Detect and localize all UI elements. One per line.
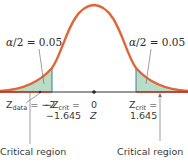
right-critical-region-fill — [136, 68, 188, 92]
alpha-right-label: α/2 = 0.05 — [129, 37, 185, 48]
critical-region-left-label: Critical region — [0, 147, 66, 157]
zdata-marker — [39, 91, 42, 94]
neg-zcrit-eq: = — [69, 99, 80, 110]
normal-curve — [0, 5, 188, 91]
pos-zcrit-label: Zcrit = — [129, 100, 157, 110]
alpha-value: /2 = 0.05 — [136, 36, 185, 48]
mean-marker — [92, 90, 96, 94]
center-zero-label: 0 — [91, 100, 97, 110]
alpha-left-label: α/2 = 0.05 — [6, 37, 62, 48]
zdata-sub: data — [13, 104, 28, 112]
normal-distribution-figure — [0, 0, 188, 166]
center-z-label: Z — [90, 111, 97, 121]
arrow-up-icon — [158, 93, 162, 97]
pos-zcrit-eq: = — [146, 99, 157, 110]
critical-region-right-label: Critical region — [117, 147, 183, 157]
pos-zcrit-value: 1.645 — [130, 111, 157, 121]
pos-zcrit-main: Z — [129, 99, 136, 110]
zdata-main: Z — [6, 99, 13, 110]
neg-zcrit-label: −Zcrit = — [44, 100, 80, 110]
left-critical-region-fill — [0, 68, 52, 92]
neg-zcrit-main: −Z — [44, 99, 58, 110]
neg-zcrit-value: −1.645 — [46, 111, 81, 121]
alpha-value: /2 = 0.05 — [13, 36, 62, 48]
